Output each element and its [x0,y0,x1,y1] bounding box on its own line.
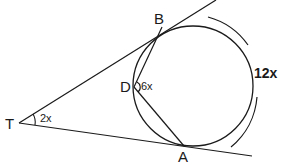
label-angle-t: 2x [40,112,52,124]
label-major-arc: 12x [254,65,278,81]
chord-bd [134,27,162,87]
angle-arc-t [33,114,35,125]
label-point-b: B [154,10,164,27]
tangent-circle-diagram: T B D A 2x 6x 12x [0,0,281,165]
label-point-t: T [5,115,14,132]
major-arc-marker-upper [208,17,248,45]
tangent-line-ta [19,123,252,156]
label-point-a: A [178,148,188,165]
major-arc-marker-lower [231,97,257,147]
diagram-canvas: T B D A 2x 6x 12x [0,0,281,165]
label-point-d: D [120,78,131,95]
tangent-line-tb [19,0,216,123]
label-angle-d: 6x [141,80,153,92]
